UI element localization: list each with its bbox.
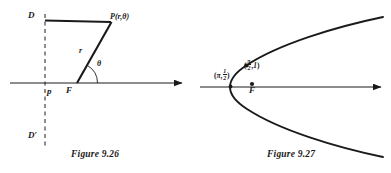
focus-F-label: F — [249, 86, 255, 95]
figure-9-26-caption: Figure 9.26 — [71, 150, 119, 160]
distance-p-label: p — [47, 87, 52, 96]
upper-close-paren: ) — [257, 61, 260, 70]
radius-r-label: r — [79, 47, 82, 55]
directrix-top-label: D — [28, 11, 35, 20]
vertex-polar-coordinate-label: (π,12) — [214, 68, 230, 81]
figure-9-27-panel: (π,12) (π2,1) F Figure 9.27 — [195, 0, 391, 173]
upper-polar-coordinate-label: (π2,1) — [244, 58, 259, 71]
vertex-point-dot — [229, 85, 233, 89]
angle-theta-label: θ — [97, 60, 101, 68]
focus-F-label: F — [66, 86, 72, 95]
angle-arc-theta — [87, 65, 97, 83]
figure-9-27-caption: Figure 9.27 — [267, 150, 315, 160]
segment-D-to-P — [45, 21, 111, 23]
figure-9-27-drawing — [195, 0, 391, 173]
segment-F-to-P-radius — [77, 22, 112, 83]
directrix-bottom-label: D′ — [28, 131, 37, 140]
figure-9-26-panel: D D′ P(r,θ) r θ p F Figure 9.26 — [0, 0, 196, 173]
vertex-close-paren: ) — [227, 71, 230, 80]
point-P-label: P(r,θ) — [110, 13, 129, 21]
figure-9-26-drawing — [0, 0, 196, 173]
